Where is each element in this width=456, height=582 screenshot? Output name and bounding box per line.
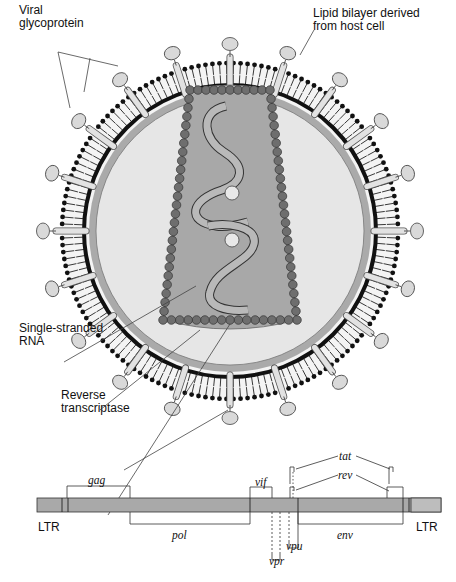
label-ltr-left: LTR	[38, 520, 60, 534]
label-reverse-transcriptase: Reverse transcriptase	[61, 389, 130, 415]
gene-label-vpu: vpu	[286, 540, 303, 552]
gene-label-rev: rev	[338, 469, 352, 481]
gene-label-gag: gag	[88, 474, 105, 486]
gene-label-vif: vif	[255, 476, 267, 488]
hiv-virion	[37, 38, 424, 425]
label-viral-glycoprotein: Viral glycoprotein	[19, 4, 84, 30]
label-single-stranded-rna: Single-stranded RNA	[19, 322, 103, 348]
label-ltr-right: LTR	[416, 520, 438, 534]
hiv-genome-map	[37, 456, 441, 560]
gene-label-tat: tat	[339, 450, 351, 462]
hiv-diagram	[0, 0, 456, 582]
gene-label-env: env	[337, 529, 353, 541]
gene-label-pol: pol	[172, 529, 187, 541]
gene-label-vpr: vpr	[269, 555, 284, 567]
label-lipid-bilayer: Lipid bilayer derived from host cell	[313, 7, 420, 33]
